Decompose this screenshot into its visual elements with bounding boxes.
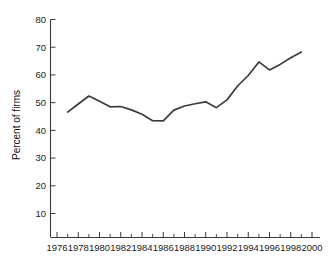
plot-area: 1020304050607080 19761978198019821984198… [35, 14, 322, 253]
x-tick-label: 1984 [131, 242, 152, 253]
chart-canvas: 1020304050607080 19761978198019821984198… [0, 0, 331, 269]
y-axis-tick-labels: 1020304050607080 [35, 14, 46, 219]
x-tick-label: 1986 [153, 242, 174, 253]
y-tick-label: 70 [35, 42, 46, 53]
x-tick-label: 1976 [46, 242, 67, 253]
y-tick-label: 60 [35, 69, 46, 80]
x-tick-label: 2000 [301, 242, 322, 253]
x-tick-label: 1998 [280, 242, 301, 253]
y-tick-label: 10 [35, 208, 46, 219]
y-tick-label: 30 [35, 152, 46, 163]
y-tick-label: 50 [35, 97, 46, 108]
x-tick-label: 1994 [238, 242, 259, 253]
y-tick-label: 80 [35, 14, 46, 25]
y-tick-label: 20 [35, 180, 46, 191]
x-tick-label: 1982 [110, 242, 131, 253]
y-tick-label: 40 [35, 125, 46, 136]
x-tick-label: 1996 [259, 242, 280, 253]
x-tick-label: 1992 [216, 242, 237, 253]
y-axis: 1020304050607080 [35, 14, 55, 237]
x-axis-major-ticks [57, 232, 312, 238]
x-tick-label: 1990 [195, 242, 216, 253]
x-tick-label: 1978 [68, 242, 89, 253]
y-axis-title: Percent of firms [11, 90, 22, 160]
x-tick-label: 1988 [174, 242, 195, 253]
x-axis: 1976197819801982198419861988199019921994… [46, 232, 322, 253]
line-chart: 1020304050607080 19761978198019821984198… [0, 0, 331, 269]
data-series-line [68, 52, 302, 121]
y-axis-ticks [51, 20, 56, 214]
x-tick-label: 1980 [89, 242, 110, 253]
x-axis-tick-labels: 1976197819801982198419861988199019921994… [46, 242, 322, 253]
